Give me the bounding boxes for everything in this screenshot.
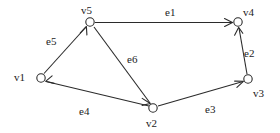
edge-e4-line <box>46 82 149 107</box>
vertex-node-v3[interactable] <box>244 75 252 83</box>
edge-label-e3: e3 <box>205 104 216 115</box>
edge-label-e4: e4 <box>79 106 90 117</box>
edge-label-e5: e5 <box>46 36 57 47</box>
vertex-label-v4: v4 <box>243 7 254 18</box>
vertex-label-v2: v2 <box>146 118 157 129</box>
vertex-node-v1[interactable] <box>37 74 45 82</box>
vertex-node-v5[interactable] <box>86 18 94 26</box>
vertex-label-v5: v5 <box>81 5 92 16</box>
edge-e3-line <box>158 82 243 107</box>
edge-label-e2: e2 <box>244 48 255 59</box>
edge-e5-line <box>44 27 86 74</box>
edge-label-e1: e1 <box>165 7 176 18</box>
vertex-label-v3: v3 <box>253 88 264 99</box>
edge-e5 <box>44 27 87 74</box>
edge-e6 <box>94 27 150 105</box>
edge-e3-arrowhead <box>235 81 244 87</box>
directed-graph-figure: v1 v2 v3 v4 v5 e1 e2 e3 e4 e5 e6 <box>0 0 280 133</box>
edge-label-e6: e6 <box>127 54 138 65</box>
edge-e6-line <box>94 27 150 103</box>
vertex-node-v2[interactable] <box>149 104 157 112</box>
edge-e3 <box>158 81 243 106</box>
vertex-label-v1: v1 <box>14 72 25 83</box>
edge-e1 <box>95 19 233 27</box>
vertex-node-v4[interactable] <box>234 18 242 26</box>
edge-e5-arrowhead <box>80 27 87 35</box>
graph-canvas <box>0 0 280 133</box>
